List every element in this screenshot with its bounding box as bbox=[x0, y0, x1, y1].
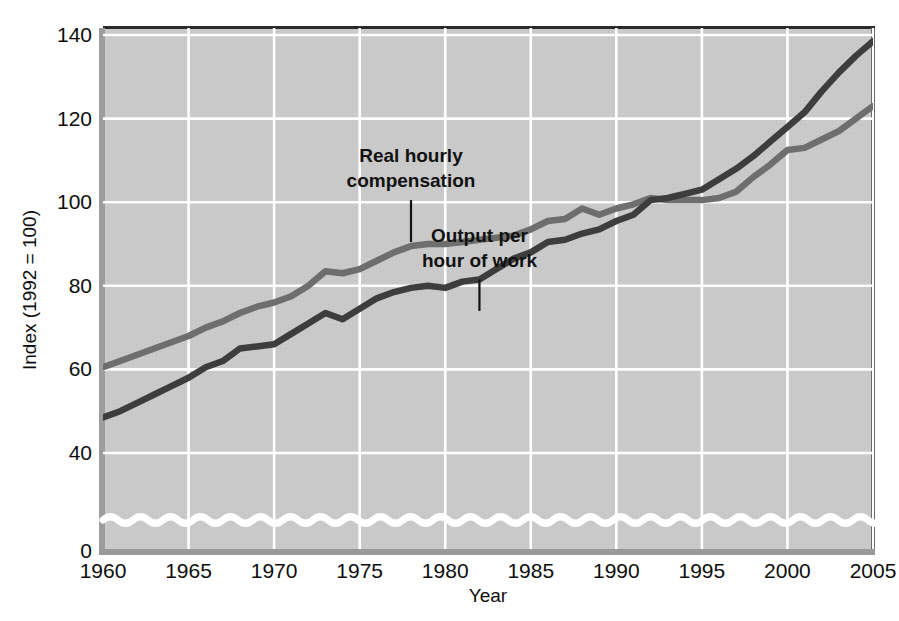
figure-container: 0406080100120140 19601965197019751980198… bbox=[0, 0, 899, 621]
y-tick-label: 80 bbox=[69, 274, 92, 297]
y-axis-tick-labels: 0406080100120140 bbox=[57, 23, 92, 562]
annotation-label-2-line2: hour of work bbox=[422, 250, 537, 271]
annotation-label-1-line2: compensation bbox=[347, 170, 476, 191]
y-tick-label: 120 bbox=[57, 107, 92, 130]
x-tick-label: 1970 bbox=[251, 559, 298, 582]
y-tick-label: 100 bbox=[57, 190, 92, 213]
x-tick-label: 1990 bbox=[593, 559, 640, 582]
y-tick-label: 40 bbox=[69, 441, 92, 464]
x-tick-label: 2000 bbox=[764, 559, 811, 582]
y-axis-title: Index (1992 = 100) bbox=[19, 210, 40, 370]
annotation-label-1-line1: Real hourly bbox=[359, 145, 463, 166]
x-tick-label: 1960 bbox=[80, 559, 127, 582]
line-chart: 0406080100120140 19601965197019751980198… bbox=[0, 0, 899, 621]
annotation-label-2-line1: Output per bbox=[431, 225, 529, 246]
x-tick-label: 1995 bbox=[679, 559, 726, 582]
x-tick-label: 1980 bbox=[422, 559, 469, 582]
x-tick-label: 1965 bbox=[165, 559, 212, 582]
x-tick-label: 2005 bbox=[850, 559, 897, 582]
y-tick-label: 140 bbox=[57, 23, 92, 46]
x-tick-label: 1985 bbox=[507, 559, 554, 582]
x-tick-label: 1975 bbox=[336, 559, 383, 582]
x-axis-title: Year bbox=[469, 585, 508, 606]
x-axis-tick-labels: 1960196519701975198019851990199520002005 bbox=[80, 559, 897, 582]
y-tick-label: 60 bbox=[69, 357, 92, 380]
plot-area-background bbox=[99, 26, 875, 555]
